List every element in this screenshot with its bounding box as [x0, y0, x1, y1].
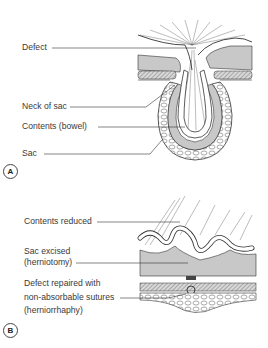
label-sac: Sac [22, 148, 37, 159]
label-contents-reduced: Contents reduced [24, 216, 92, 227]
label-non-absorbable-sutures: non-absorbable sutures [24, 292, 114, 303]
label-neck-of-sac: Neck of sac [22, 101, 67, 112]
panel-b-drawing [140, 196, 256, 313]
label-defect: Defect [22, 42, 47, 53]
panel-letter-a: A [3, 164, 18, 179]
label-contents-bowel: Contents (bowel) [22, 121, 87, 132]
panel-a-drawing [138, 20, 252, 160]
label-herniorrhaphy: (herniorrhaphy) [24, 305, 83, 316]
label-herniotomy: (herniotomy) [24, 257, 72, 268]
label-defect-repaired: Defect repaired with [24, 278, 100, 289]
panel-letter-b: B [3, 323, 18, 338]
label-sac-excised: Sac excised [24, 246, 70, 257]
